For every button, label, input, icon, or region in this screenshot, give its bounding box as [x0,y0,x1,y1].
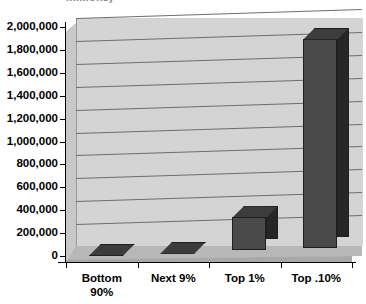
y-axis-tick-label: 800,000 [0,158,58,169]
bar-chart: millions) 2,000,0001,800,0001,600,0001,4… [0,0,366,304]
x-axis-tick-label-line: Top 1% [209,271,281,285]
bar [303,18,349,262]
bar-front-face [232,217,266,250]
y-axis-tick-label: 1,800,000 [0,44,58,55]
x-axis-tick [66,262,67,268]
x-axis-tick-label: Top .10% [281,271,353,285]
y-axis-labels: 2,000,0001,800,0001,600,0001,400,0001,20… [0,0,58,304]
bar [160,18,206,262]
x-axis-tick [138,262,139,268]
x-axis-tick [352,262,353,268]
y-axis-tick-label: 1,200,000 [0,113,58,124]
plot-area [66,18,362,262]
y-axis-tick-label: 1,600,000 [0,67,58,78]
bar-side-face [337,28,349,238]
x-axis-tick-label: Top 1% [209,271,281,285]
x-axis-tick [281,262,282,268]
y-axis-tick-label: 200,000 [0,227,58,238]
bar [232,18,278,262]
x-axis-tick-label-line: Bottom [66,271,138,285]
x-axis-tick-label: Bottom90% [66,271,138,299]
y-axis-tick-label: 1,400,000 [0,90,58,101]
y-axis-tick-label: 2,000,000 [0,21,58,32]
y-axis-tick-label: 0 [0,250,58,261]
bar-top-face [160,242,206,254]
bar [89,18,135,262]
x-axis-tick-label: Next 9% [138,271,210,285]
chart-title: millions) [66,0,113,3]
y-axis-tick-label: 400,000 [0,204,58,215]
x-axis-tick-label-line: Next 9% [138,271,210,285]
x-axis-line [58,262,356,263]
y-axis-tick-label: 1,000,000 [0,136,58,147]
x-axis-tick-label-line: Top .10% [281,271,353,285]
bar-front-face [303,39,337,249]
x-axis-tick-label-line: 90% [66,285,138,299]
bar-top-face [89,244,135,256]
x-axis-tick [209,262,210,268]
y-axis-tick-label: 600,000 [0,181,58,192]
